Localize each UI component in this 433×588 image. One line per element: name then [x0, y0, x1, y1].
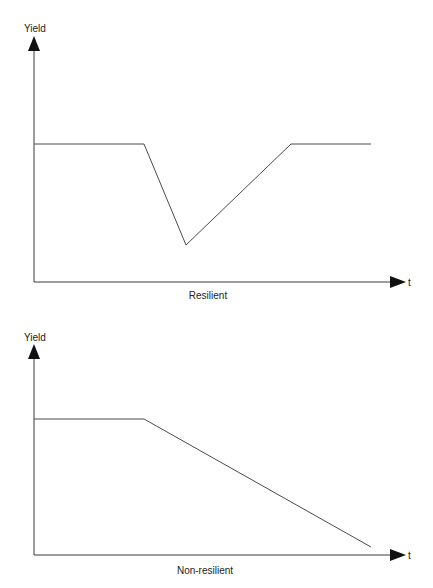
panel-caption: Resilient	[189, 290, 228, 301]
y-axis-label: Yield	[24, 23, 46, 34]
y-axis-label: Yield	[24, 332, 46, 343]
x-axis-arrow-icon	[390, 276, 406, 288]
x-axis-label: t	[408, 277, 411, 288]
yield-curve-non-resilient	[34, 419, 371, 547]
panel-caption: Non-resilient	[177, 565, 233, 576]
resilience-diagram: Yield t Resilient Yield t Non-resilient	[0, 0, 433, 588]
x-axis-arrow-icon	[390, 549, 406, 561]
x-axis-label: t	[408, 550, 411, 561]
panel-resilient: Yield t Resilient	[24, 23, 411, 301]
panel-non-resilient: Yield t Non-resilient	[24, 332, 411, 576]
y-axis-arrow-icon	[28, 36, 40, 51]
yield-curve-resilient	[34, 144, 371, 245]
y-axis-arrow-icon	[28, 344, 40, 359]
